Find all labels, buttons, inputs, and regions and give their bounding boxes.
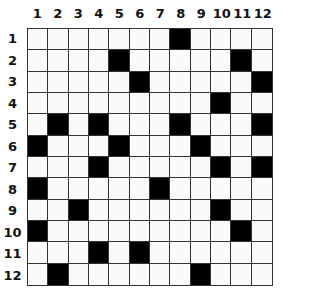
grid-cell[interactable] xyxy=(191,72,211,93)
grid-cell[interactable] xyxy=(69,242,89,263)
grid-cell[interactable] xyxy=(89,178,109,199)
grid-cell[interactable] xyxy=(130,157,150,178)
grid-cell[interactable] xyxy=(89,200,109,221)
grid-cell[interactable] xyxy=(170,242,190,263)
grid-cell[interactable] xyxy=(211,264,231,285)
grid-cell[interactable] xyxy=(28,93,48,114)
grid-cell[interactable] xyxy=(89,136,109,157)
grid-cell[interactable] xyxy=(89,264,109,285)
grid-cell[interactable] xyxy=(109,200,129,221)
grid-cell[interactable] xyxy=(231,157,251,178)
grid-cell[interactable] xyxy=(231,72,251,93)
grid-cell[interactable] xyxy=(191,157,211,178)
grid-cell[interactable] xyxy=(150,136,170,157)
grid-cell[interactable] xyxy=(130,50,150,71)
grid-cell[interactable] xyxy=(231,264,251,285)
grid-cell[interactable] xyxy=(252,200,272,221)
grid-cell[interactable] xyxy=(170,264,190,285)
grid-cell[interactable] xyxy=(211,242,231,263)
grid-cell[interactable] xyxy=(48,178,68,199)
grid-cell[interactable] xyxy=(109,221,129,242)
grid-cell[interactable] xyxy=(191,114,211,135)
grid-cell[interactable] xyxy=(252,29,272,50)
grid-cell[interactable] xyxy=(130,200,150,221)
grid-cell[interactable] xyxy=(109,114,129,135)
grid-cell[interactable] xyxy=(150,29,170,50)
grid-cell[interactable] xyxy=(89,50,109,71)
grid-cell[interactable] xyxy=(150,242,170,263)
grid-cell[interactable] xyxy=(191,242,211,263)
grid-cell[interactable] xyxy=(170,157,190,178)
grid-cell[interactable] xyxy=(28,72,48,93)
grid-cell[interactable] xyxy=(48,136,68,157)
grid-cell[interactable] xyxy=(69,136,89,157)
grid-cell[interactable] xyxy=(150,221,170,242)
grid-cell[interactable] xyxy=(69,264,89,285)
grid-cell[interactable] xyxy=(48,221,68,242)
grid-cell[interactable] xyxy=(231,93,251,114)
grid-cell[interactable] xyxy=(109,264,129,285)
grid-cell[interactable] xyxy=(252,50,272,71)
grid-cell[interactable] xyxy=(252,264,272,285)
grid-cell[interactable] xyxy=(231,178,251,199)
grid-cell[interactable] xyxy=(191,221,211,242)
grid-cell[interactable] xyxy=(170,72,190,93)
grid-cell[interactable] xyxy=(130,221,150,242)
grid-cell[interactable] xyxy=(130,264,150,285)
grid-cell[interactable] xyxy=(130,93,150,114)
grid-cell[interactable] xyxy=(109,242,129,263)
grid-cell[interactable] xyxy=(231,242,251,263)
grid-cell[interactable] xyxy=(48,29,68,50)
grid-cell[interactable] xyxy=(28,242,48,263)
grid-cell[interactable] xyxy=(170,200,190,221)
grid-cell[interactable] xyxy=(28,264,48,285)
grid-cell[interactable] xyxy=(150,114,170,135)
grid-cell[interactable] xyxy=(211,221,231,242)
grid-cell[interactable] xyxy=(252,221,272,242)
grid-cell[interactable] xyxy=(69,29,89,50)
grid-cell[interactable] xyxy=(191,93,211,114)
grid-cell[interactable] xyxy=(211,114,231,135)
grid-cell[interactable] xyxy=(150,157,170,178)
grid-cell[interactable] xyxy=(231,114,251,135)
grid-cell[interactable] xyxy=(28,200,48,221)
grid-cell[interactable] xyxy=(231,200,251,221)
grid-cell[interactable] xyxy=(69,72,89,93)
grid-cell[interactable] xyxy=(231,136,251,157)
grid-cell[interactable] xyxy=(69,221,89,242)
grid-cell[interactable] xyxy=(109,157,129,178)
grid-cell[interactable] xyxy=(170,50,190,71)
grid-cell[interactable] xyxy=(48,157,68,178)
grid-cell[interactable] xyxy=(109,29,129,50)
grid-cell[interactable] xyxy=(130,114,150,135)
grid-cell[interactable] xyxy=(170,136,190,157)
grid-cell[interactable] xyxy=(150,264,170,285)
grid-cell[interactable] xyxy=(28,50,48,71)
grid-cell[interactable] xyxy=(69,157,89,178)
grid-cell[interactable] xyxy=(191,178,211,199)
grid-cell[interactable] xyxy=(191,50,211,71)
grid-cell[interactable] xyxy=(211,72,231,93)
grid-cell[interactable] xyxy=(48,72,68,93)
grid-cell[interactable] xyxy=(211,29,231,50)
grid-cell[interactable] xyxy=(211,136,231,157)
grid-cell[interactable] xyxy=(69,93,89,114)
grid-cell[interactable] xyxy=(150,200,170,221)
grid-cell[interactable] xyxy=(69,114,89,135)
grid-cell[interactable] xyxy=(150,50,170,71)
grid-cell[interactable] xyxy=(69,50,89,71)
grid-cell[interactable] xyxy=(48,242,68,263)
grid-cell[interactable] xyxy=(191,200,211,221)
grid-cell[interactable] xyxy=(69,178,89,199)
grid-cell[interactable] xyxy=(130,29,150,50)
grid-cell[interactable] xyxy=(28,114,48,135)
grid-cell[interactable] xyxy=(252,93,272,114)
grid-cell[interactable] xyxy=(130,136,150,157)
grid-cell[interactable] xyxy=(231,29,251,50)
grid-cell[interactable] xyxy=(89,29,109,50)
grid-cell[interactable] xyxy=(48,200,68,221)
grid-cell[interactable] xyxy=(109,72,129,93)
grid-cell[interactable] xyxy=(28,29,48,50)
grid-cell[interactable] xyxy=(191,29,211,50)
grid-cell[interactable] xyxy=(211,178,231,199)
